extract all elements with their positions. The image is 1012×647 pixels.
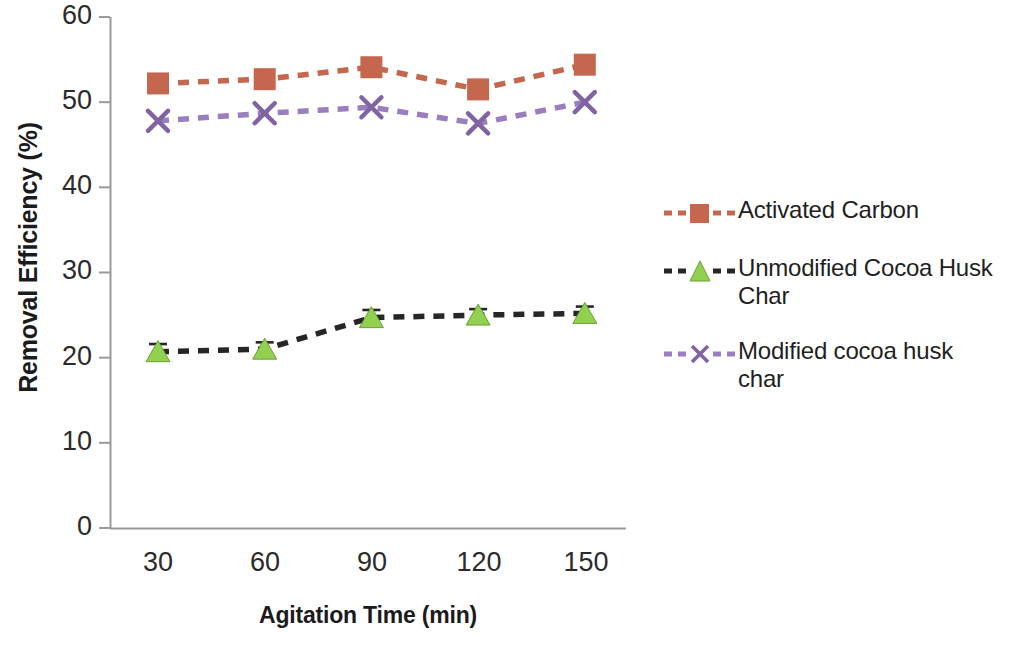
chart-legend: Activated Carbon Unmodified Cocoa Husk C…	[662, 196, 1012, 419]
square-marker-icon	[662, 198, 738, 228]
legend-item: Modified cocoa husk char	[662, 337, 1012, 394]
data-series	[148, 92, 595, 133]
legend-label: Unmodified Cocoa Husk Char	[738, 254, 998, 311]
triangle-marker-icon	[662, 256, 738, 286]
data-point-square	[254, 68, 276, 90]
data-point-square	[360, 56, 382, 78]
legend-item: Activated Carbon	[662, 196, 1012, 228]
data-point-triangle	[466, 304, 490, 325]
data-point-square	[574, 54, 596, 76]
legend-label: Activated Carbon	[738, 196, 919, 224]
legend-label: Modified cocoa husk char	[738, 337, 998, 394]
data-point-x	[255, 103, 275, 123]
data-series	[146, 302, 597, 361]
data-series	[147, 54, 596, 101]
data-point-square	[467, 78, 489, 100]
y-axis-ticks	[99, 17, 110, 528]
data-point-square	[147, 72, 169, 94]
chart-figure: Removal Efficiency (%) 60 50 40 30 20 10…	[0, 0, 1012, 647]
x-marker-icon	[662, 339, 738, 369]
series-layer	[146, 54, 597, 362]
legend-item: Unmodified Cocoa Husk Char	[662, 254, 1012, 311]
